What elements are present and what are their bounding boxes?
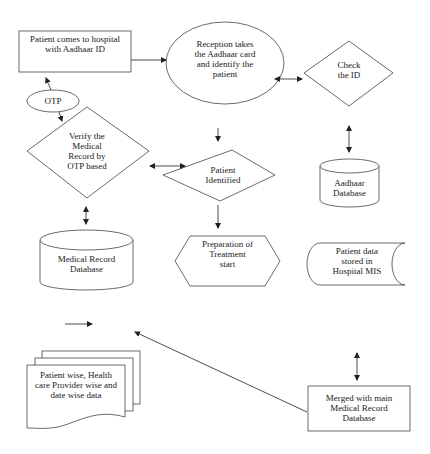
medical-record-db-label: Medical Record Database [40, 252, 133, 276]
verify-record-label: Verify the Medical Record by OTP based [52, 128, 122, 174]
aadhaar-database-top [320, 159, 379, 173]
reports-label: Patient wise, Health care Provider wise … [27, 367, 125, 403]
aadhaar-db-label: Aadhaar Database [320, 176, 379, 200]
merged-label: Merged with main Medical Record Database [308, 390, 410, 426]
medical-record-database-top [40, 230, 133, 250]
edge-merged-diagonal [135, 332, 307, 412]
patient-identified-label: Patient Identified [190, 163, 256, 187]
edge-otp-to-patient [46, 78, 51, 90]
patient-arrives-label: Patient comes to hospital with Aadhaar I… [19, 31, 131, 57]
check-id-label: Check the ID [320, 56, 378, 84]
otp-label: OTP [28, 94, 78, 108]
reception-label: Reception takes the Aadhaar card and ide… [170, 36, 280, 82]
hospital-mis-label: Patient data stored in Hospital MIS [322, 243, 392, 279]
edge-otp-to-verify [59, 112, 62, 121]
treatment-label: Preparation of Treatment start [185, 236, 270, 272]
